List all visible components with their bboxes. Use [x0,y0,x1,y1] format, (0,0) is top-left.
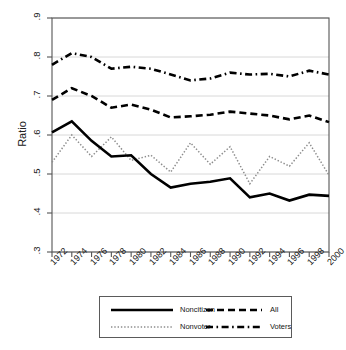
y-tick-label: .7 [31,85,42,105]
y-axis-title: Ratio [16,104,28,164]
y-tick-label: .3 [31,241,42,261]
legend-label-noncitizen: Noncitizen [180,305,215,314]
y-tick-label: .9 [31,7,42,27]
chart-legend: NoncitizenAllNonvoterVoters [99,296,292,338]
y-tick-label: .6 [31,124,42,144]
series-line-all [52,88,329,122]
legend-swatches [100,297,291,337]
gridlines [52,18,329,252]
legend-label-all: All [270,305,278,314]
legend-label-voters: Voters [270,322,291,331]
series-line-noncitizen [52,121,329,200]
y-tick-label: .4 [31,202,42,222]
chart-figure: Ratio .9.8.7.6.5.4.3 1972197419761978198… [0,0,346,350]
y-tick-label: .8 [31,46,42,66]
y-tick-label: .5 [31,163,42,183]
legend-label-nonvoter: Nonvoter [180,322,210,331]
data-series [52,53,329,200]
